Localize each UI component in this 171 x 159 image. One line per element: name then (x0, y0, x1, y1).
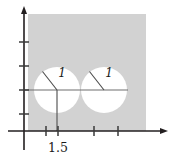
x-value-label: 1.5 (48, 140, 68, 155)
figure-canvas: 1 1 1.5 (0, 0, 171, 159)
y-axis-arrow-icon (21, 6, 27, 14)
math-figure: 1 1 1.5 (0, 0, 171, 159)
right-radius-label: 1 (105, 66, 113, 80)
left-radius-label: 1 (58, 66, 66, 80)
x-axis-arrow-icon (160, 128, 168, 134)
